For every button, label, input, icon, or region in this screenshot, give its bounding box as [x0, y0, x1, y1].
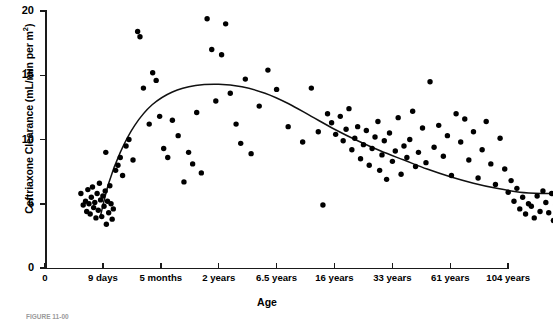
- data-point: [398, 171, 403, 176]
- data-point: [285, 124, 290, 129]
- data-point: [458, 139, 463, 144]
- x-axis-title: Age: [0, 296, 534, 308]
- data-point: [161, 146, 166, 151]
- data-point: [502, 166, 507, 171]
- data-point: [471, 129, 476, 134]
- data-point: [343, 127, 348, 132]
- data-point: [325, 111, 330, 116]
- data-point: [130, 157, 135, 162]
- data-point: [382, 138, 387, 143]
- data-point: [390, 159, 395, 164]
- data-point: [375, 119, 380, 124]
- data-point: [89, 195, 94, 200]
- data-point: [367, 163, 372, 168]
- data-point: [209, 47, 214, 52]
- data-point: [91, 205, 96, 210]
- data-point: [445, 133, 450, 138]
- data-point: [416, 150, 421, 155]
- data-point: [233, 121, 238, 126]
- data-point: [223, 21, 228, 26]
- data-point: [86, 201, 91, 206]
- data-point: [517, 206, 522, 211]
- data-point: [135, 29, 140, 34]
- data-point: [123, 143, 128, 148]
- data-point: [113, 168, 118, 173]
- data-point: [103, 150, 108, 155]
- data-point: [199, 170, 204, 175]
- data-point: [274, 87, 279, 92]
- data-point: [100, 193, 105, 198]
- data-point: [511, 198, 516, 203]
- data-point: [404, 155, 409, 160]
- data-point: [346, 106, 351, 111]
- data-point: [549, 191, 553, 196]
- data-point: [243, 76, 248, 81]
- data-point: [96, 207, 101, 212]
- data-point: [85, 187, 90, 192]
- data-point: [93, 215, 98, 220]
- data-point: [497, 136, 502, 141]
- data-point: [506, 189, 511, 194]
- data-point: [393, 148, 398, 153]
- data-point: [126, 137, 131, 142]
- data-point: [104, 222, 109, 227]
- data-point: [543, 200, 548, 205]
- scatter-points: [78, 16, 553, 227]
- data-point: [150, 70, 155, 75]
- data-point: [379, 152, 384, 157]
- data-point: [190, 161, 195, 166]
- data-point: [106, 210, 111, 215]
- data-point: [109, 216, 114, 221]
- data-point: [387, 130, 392, 135]
- data-point: [329, 120, 334, 125]
- data-point: [103, 188, 108, 193]
- data-point: [309, 85, 314, 90]
- data-point: [407, 137, 412, 142]
- data-point: [364, 128, 369, 133]
- data-point: [120, 173, 125, 178]
- data-point: [537, 209, 542, 214]
- data-point: [186, 150, 191, 155]
- data-point: [99, 214, 104, 219]
- data-point: [228, 91, 233, 96]
- data-point: [257, 103, 262, 108]
- data-point: [87, 211, 92, 216]
- data-point: [540, 188, 545, 193]
- data-point: [300, 139, 305, 144]
- data-point: [493, 182, 498, 187]
- data-point: [401, 143, 406, 148]
- data-point: [78, 191, 83, 196]
- data-point: [175, 133, 180, 138]
- data-point: [395, 115, 400, 120]
- data-point: [508, 178, 513, 183]
- data-point: [479, 147, 484, 152]
- data-point: [384, 177, 389, 182]
- data-point: [453, 111, 458, 116]
- data-point: [101, 204, 106, 209]
- data-point: [157, 114, 162, 119]
- data-point: [219, 52, 224, 57]
- data-point: [238, 141, 243, 146]
- data-point: [194, 110, 199, 115]
- data-point: [523, 211, 528, 216]
- data-point: [333, 132, 338, 137]
- data-point: [204, 16, 209, 21]
- data-point: [90, 184, 95, 189]
- data-point: [441, 154, 446, 159]
- data-point: [372, 134, 377, 139]
- data-point: [488, 161, 493, 166]
- data-point: [413, 164, 418, 169]
- data-point: [520, 195, 525, 200]
- data-point: [118, 155, 123, 160]
- data-point: [92, 200, 97, 205]
- data-point: [484, 119, 489, 124]
- data-point: [107, 183, 112, 188]
- data-point: [431, 145, 436, 150]
- data-point: [316, 129, 321, 134]
- data-point: [248, 151, 253, 156]
- data-point: [529, 204, 534, 209]
- data-point: [94, 191, 99, 196]
- data-point: [108, 201, 113, 206]
